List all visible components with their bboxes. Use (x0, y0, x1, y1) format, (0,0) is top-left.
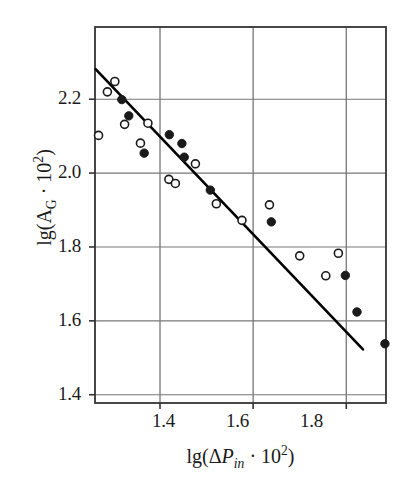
data-point-open (144, 119, 152, 127)
x-tick-label-1.8: 1.8 (300, 410, 323, 432)
data-point-filled (140, 149, 148, 157)
data-point-open (265, 201, 273, 209)
x-title-delta: Δ (209, 445, 222, 467)
x-title-prefix: lg( (186, 445, 208, 467)
y-tick-label-2.2: 2.2 (58, 87, 81, 109)
y-axis-title: lg(AG · 102) (33, 149, 55, 246)
data-point-open (212, 200, 220, 208)
data-point-open (334, 249, 342, 257)
trend-line (96, 69, 363, 349)
x-axis-title-wrapper: lg(ΔPin · 102) (95, 445, 386, 468)
data-point-filled (381, 340, 389, 348)
scatter-plot-figure: 2.2 2.0 1.8 1.6 1.4 1.4 1.6 1.8 lg(AG · … (0, 0, 413, 490)
data-point-open (171, 179, 179, 187)
x-axis-title: lg(ΔPin · 102) (186, 445, 294, 467)
y-title-suffix: ) (33, 149, 55, 156)
data-point-filled (267, 218, 275, 226)
axis-ticks (89, 99, 346, 409)
y-tick-label-1.6: 1.6 (58, 309, 81, 331)
y-tick-label-1.4: 1.4 (58, 383, 81, 405)
data-point-open (136, 139, 144, 147)
x-title-exponent: 2 (281, 443, 288, 458)
x-title-symbol: P (222, 445, 234, 467)
y-title-prefix: lg(A (33, 209, 55, 246)
y-tick-label-1.8: 1.8 (58, 235, 81, 257)
x-title-subscript: in (234, 456, 245, 471)
data-point-open (121, 120, 129, 128)
y-title-middot: · 10 (33, 163, 55, 200)
data-point-filled (341, 271, 349, 279)
data-point-filled (206, 186, 214, 194)
data-point-filled (180, 153, 188, 161)
data-point-filled (165, 130, 173, 138)
data-point-filled (353, 308, 361, 316)
y-title-exponent: 2 (31, 156, 46, 163)
data-point-open (296, 252, 304, 260)
data-point-open (103, 88, 111, 96)
regression-line (96, 69, 363, 349)
data-point-open (238, 216, 246, 224)
data-point-open (111, 77, 119, 85)
data-point-filled (118, 95, 126, 103)
y-tick-label-2.0: 2.0 (58, 161, 81, 183)
plot-frame (95, 27, 386, 403)
plot-frame-rect (95, 27, 386, 403)
y-title-subscript: G (44, 199, 59, 209)
x-tick-label-1.4: 1.4 (152, 410, 175, 432)
data-point-filled (178, 139, 186, 147)
data-point-open (322, 272, 330, 280)
data-point-open (95, 131, 103, 139)
x-tick-label-1.6: 1.6 (226, 410, 249, 432)
grid-lines (95, 27, 386, 403)
y-axis-title-wrapper: lg(AG · 102) (33, 118, 56, 278)
data-point-filled (125, 112, 133, 120)
x-title-suffix: ) (288, 445, 295, 467)
data-point-open (191, 160, 199, 168)
x-title-middot: · 10 (244, 445, 281, 467)
